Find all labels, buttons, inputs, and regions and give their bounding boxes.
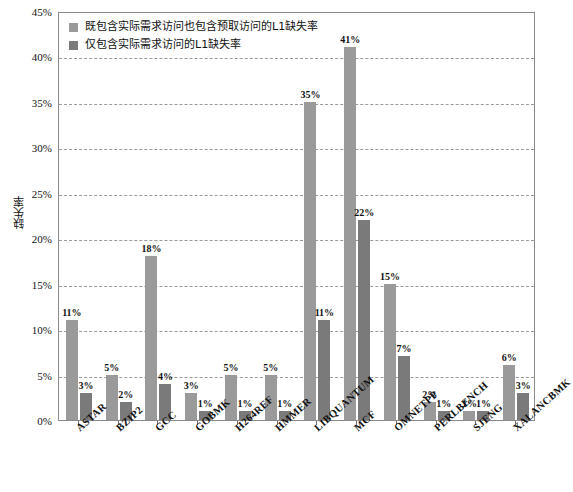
bar[interactable] <box>344 47 356 420</box>
bar-value-label: 11% <box>61 308 83 318</box>
y-axis-tick-label: 35% <box>32 98 52 109</box>
bar[interactable] <box>145 256 157 420</box>
legend-item: 仅包含实际需求访问的L1缺失率 <box>69 37 318 53</box>
legend-item-label: 既包含实际需求访问也包含预取访问的L1缺失率 <box>85 21 318 33</box>
bar-value-label: 35% <box>299 90 321 100</box>
bar-value-label: 4% <box>154 372 176 382</box>
bar-group: 15%7% <box>384 13 410 420</box>
bars-layer: 11%3%5%2%18%4%3%1%5%1%5%1%35%11%41%22%15… <box>59 13 534 420</box>
bar-group: 5%1% <box>225 13 251 420</box>
bar-group: 5%1% <box>265 13 291 420</box>
y-axis-tick-label: 30% <box>32 143 52 154</box>
y-axis-tick-label: 40% <box>32 52 52 63</box>
bar-value-label: 15% <box>379 272 401 282</box>
bar-value-label: 6% <box>498 353 520 363</box>
x-axis-tick-labels: ASTARBZIP2GCCGOBMKH264REFHMMERLIBQUANTUM… <box>58 421 535 492</box>
legend-item-label: 仅包含实际需求访问的L1缺失率 <box>85 39 241 51</box>
bar-value-label: 5% <box>220 363 242 373</box>
bar-group: 3%1% <box>185 13 211 420</box>
bar-value-label: 5% <box>260 363 282 373</box>
chart-legend: 既包含实际需求访问也包含预取访问的L1缺失率 仅包含实际需求访问的L1缺失率 <box>69 19 318 55</box>
bar-group: 6%3% <box>503 13 529 420</box>
bar-value-label: 22% <box>353 208 375 218</box>
legend-swatch-icon <box>69 23 78 32</box>
bar[interactable] <box>66 320 78 420</box>
y-axis-tick-labels: 0%5%10%15%20%25%30%35%40%45% <box>0 0 56 492</box>
bar-value-label: 3% <box>512 381 534 391</box>
bar-value-label: 7% <box>393 344 415 354</box>
legend-swatch-icon <box>69 41 78 50</box>
y-axis-tick-label: 20% <box>32 234 52 245</box>
y-axis-tick-label: 5% <box>37 371 52 382</box>
bar-group: 35%11% <box>304 13 330 420</box>
bar-value-label: 2% <box>115 390 137 400</box>
bar-value-label: 11% <box>313 308 335 318</box>
bar[interactable] <box>463 411 475 420</box>
y-axis-tick-label: 0% <box>37 416 52 427</box>
bar-group: 1%1% <box>463 13 489 420</box>
bar[interactable] <box>318 320 330 420</box>
bar[interactable] <box>503 365 515 420</box>
bar-group: 18%4% <box>145 13 171 420</box>
y-axis-tick-label: 25% <box>32 189 52 200</box>
bar-value-label: 5% <box>101 363 123 373</box>
y-axis-tick-label: 45% <box>32 7 52 18</box>
y-axis-tick-label: 10% <box>32 325 52 336</box>
bar-group: 41%22% <box>344 13 370 420</box>
bar-value-label: 18% <box>140 244 162 254</box>
bar-value-label: 3% <box>75 381 97 391</box>
bar-value-label: 3% <box>180 381 202 391</box>
y-axis-tick-label: 15% <box>32 280 52 291</box>
plot-area: 11%3%5%2%18%4%3%1%5%1%5%1%35%11%41%22%15… <box>58 12 535 421</box>
bar-group: 5%2% <box>106 13 132 420</box>
legend-item: 既包含实际需求访问也包含预取访问的L1缺失率 <box>69 19 318 35</box>
bar[interactable] <box>304 102 316 420</box>
bar-value-label: 41% <box>339 35 361 45</box>
bar-group: 11%3% <box>66 13 92 420</box>
bar-group: 2%1% <box>424 13 450 420</box>
